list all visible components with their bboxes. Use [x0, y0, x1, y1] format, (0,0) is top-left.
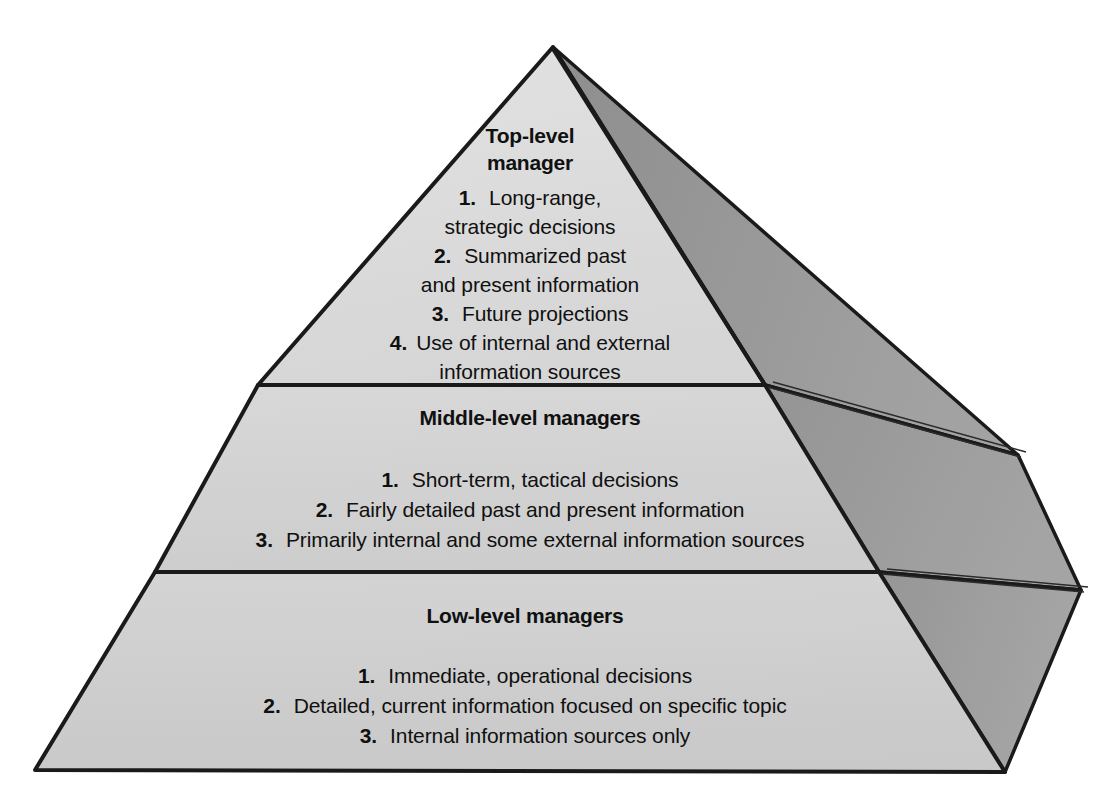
tier-middle-items: 1.Short-term, tactical decisions 2.Fairl…: [160, 465, 900, 555]
tier-middle-item-2-text: Fairly detailed past and present informa…: [346, 498, 744, 521]
tier-bottom-item-2: 2.Detailed, current information focused …: [110, 691, 940, 721]
tier-bottom-item-2-number: 2.: [263, 694, 280, 717]
tier-top-heading-line1: Top-level: [330, 122, 730, 149]
tier-top-item-3-line-1: 3.Future projections: [330, 299, 730, 328]
tier-top-item-4-number: 4.: [390, 331, 407, 354]
tier-top-item-2-line-2: and present information: [330, 270, 730, 299]
tier-top-item-1-text: Long-range,: [489, 186, 601, 209]
tier-middle-item-2: 2.Fairly detailed past and present infor…: [160, 495, 900, 525]
tier-top-item-1-line-1: 1.Long-range,: [330, 183, 730, 212]
tier-middle-item-1-text: Short-term, tactical decisions: [412, 468, 679, 491]
tier-top-item-2-line-1: 2.Summarized past: [330, 241, 730, 270]
tier-top-item-4-text: Use of internal and external: [416, 331, 670, 354]
tier-bottom-item-1-number: 1.: [358, 664, 375, 687]
tier-top-item-2-text: Summarized past: [464, 244, 626, 267]
tier-top-label-group: Top-level manager 1.Long-range, strategi…: [330, 122, 730, 386]
tier-middle-label-group: Middle-level managers 1.Short-term, tact…: [160, 404, 900, 555]
tier-bottom-item-3-number: 3.: [360, 724, 377, 747]
tier-bottom-item-3: 3.Internal information sources only: [110, 721, 940, 751]
tier-middle-heading: Middle-level managers: [160, 404, 900, 431]
pyramid-diagram-canvas: Top-level manager 1.Long-range, strategi…: [0, 0, 1115, 812]
tier-bottom-label-group: Low-level managers 1.Immediate, operatio…: [110, 602, 940, 751]
tier-bottom-item-2-text: Detailed, current information focused on…: [294, 694, 787, 717]
tier-top-items: 1.Long-range, strategic decisions 2.Summ…: [330, 183, 730, 386]
tier-middle-item-3-number: 3.: [256, 528, 273, 551]
tier-middle-item-3: 3.Primarily internal and some external i…: [160, 525, 900, 555]
tier-bottom-item-1: 1.Immediate, operational decisions: [110, 661, 940, 691]
tier-bottom-items: 1.Immediate, operational decisions 2.Det…: [110, 661, 940, 751]
tier-top-item-4-line-1: 4.Use of internal and external: [330, 328, 730, 357]
tier-top-item-3-text: Future projections: [462, 302, 628, 325]
tier-bottom-item-3-text: Internal information sources only: [390, 724, 690, 747]
tier-top-item-4-line-2: information sources: [330, 357, 730, 386]
tier-middle-item-2-number: 2.: [316, 498, 333, 521]
tier-middle-item-3-text: Primarily internal and some external inf…: [286, 528, 804, 551]
tier-middle-item-1-number: 1.: [382, 468, 399, 491]
tier-top-heading-line2: manager: [330, 149, 730, 176]
tier-top-item-3-number: 3.: [432, 302, 449, 325]
tier-top-item-2-number: 2.: [434, 244, 451, 267]
tier-middle-item-1: 1.Short-term, tactical decisions: [160, 465, 900, 495]
tier-top-item-1-line-2: strategic decisions: [330, 212, 730, 241]
tier-bottom-item-1-text: Immediate, operational decisions: [388, 664, 692, 687]
tier-bottom-heading: Low-level managers: [110, 602, 940, 629]
tier-top-item-1-number: 1.: [459, 186, 476, 209]
